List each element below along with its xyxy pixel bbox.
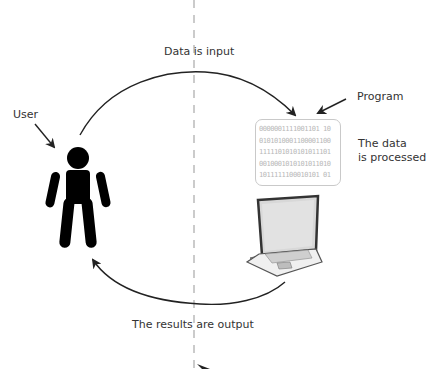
label-results-output: The results are output (132, 318, 254, 331)
laptop-icon (247, 196, 322, 276)
binary-line: 1011111100010101 01 (259, 170, 337, 182)
label-program: Program (357, 90, 403, 103)
label-user: User (13, 108, 38, 121)
user-figure-icon (45, 147, 112, 248)
label-data-input: Data is input (164, 45, 234, 58)
user-pointer-arrow (35, 124, 54, 147)
program-pointer-arrow (318, 99, 346, 113)
binary-line: 0000001111001101 10 (259, 124, 337, 136)
binary-line: 1111101010101011101 (259, 147, 337, 159)
binary-line: 0101010001100001100 (259, 136, 337, 148)
label-processed-line1: The data (358, 137, 407, 150)
binary-data-box: 0000001111001101 10 0101010001100001100 … (255, 119, 341, 186)
label-processed-line2: is processed (358, 151, 426, 164)
bottom-arrow-tip (197, 364, 210, 369)
binary-line: 0010001010101011010 (259, 159, 337, 171)
